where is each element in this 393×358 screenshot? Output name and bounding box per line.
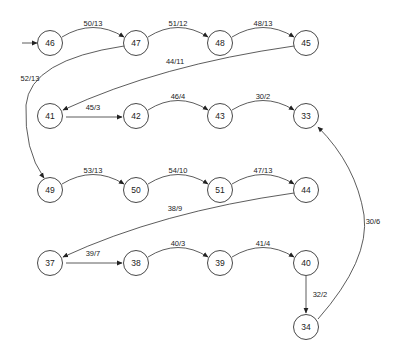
- svg-text:50: 50: [131, 185, 141, 195]
- node-42: 42: [124, 104, 149, 129]
- edge-label-45-41: 44/11: [166, 57, 184, 66]
- edge-39-40: [232, 248, 294, 258]
- svg-text:46: 46: [45, 38, 55, 48]
- node-45: 45: [294, 31, 319, 56]
- edge-label-40-34: 32/2: [313, 290, 328, 299]
- edge-label-44-37: 38/9: [168, 204, 183, 213]
- edge-51-44: [232, 175, 294, 185]
- node-47: 47: [124, 31, 149, 56]
- svg-text:41: 41: [45, 111, 55, 121]
- svg-text:38: 38: [131, 258, 141, 268]
- svg-text:37: 37: [45, 258, 55, 268]
- svg-text:42: 42: [131, 111, 141, 121]
- svg-text:51: 51: [215, 185, 225, 195]
- svg-text:39: 39: [215, 258, 225, 268]
- edge-label-47-48: 51/12: [169, 19, 188, 28]
- edge-label-41-42: 45/3: [86, 103, 101, 112]
- edge-label-51-44: 47/13: [254, 166, 273, 175]
- svg-text:34: 34: [301, 322, 311, 332]
- node-44: 44: [294, 178, 319, 203]
- edge-46-47: [62, 28, 124, 38]
- svg-text:48: 48: [215, 38, 225, 48]
- edge-label-50-51: 54/10: [169, 166, 188, 175]
- node-38: 38: [124, 251, 149, 276]
- node-39: 39: [208, 251, 233, 276]
- edge-label-43-33: 30/2: [256, 92, 271, 101]
- edge-label-39-40: 41/4: [256, 239, 271, 248]
- node-43: 43: [208, 104, 233, 129]
- node-50: 50: [124, 178, 149, 203]
- edge-label-48-45: 48/13: [254, 19, 273, 28]
- node-49: 49: [38, 178, 63, 203]
- edge-label-34-33: 30/6: [366, 217, 381, 226]
- edge-label-49-50: 53/13: [84, 166, 103, 175]
- edge-label-37-38: 39/7: [86, 249, 101, 258]
- state-diagram: 50/13 51/12 48/13 44/11 52/13 45/3 46/4 …: [0, 0, 393, 358]
- edge-50-51: [148, 175, 208, 185]
- node-37: 37: [38, 251, 63, 276]
- svg-text:40: 40: [301, 258, 311, 268]
- node-48: 48: [208, 31, 233, 56]
- node-41: 41: [38, 104, 63, 129]
- svg-text:43: 43: [215, 111, 225, 121]
- node-34: 34: [294, 315, 319, 340]
- svg-text:44: 44: [301, 185, 311, 195]
- svg-text:47: 47: [131, 38, 141, 48]
- node-40: 40: [294, 251, 319, 276]
- edge-38-39: [148, 248, 208, 258]
- node-51: 51: [208, 178, 233, 203]
- edge-42-43: [148, 101, 208, 111]
- svg-text:45: 45: [301, 38, 311, 48]
- edge-47-48: [148, 28, 208, 38]
- svg-text:49: 49: [45, 185, 55, 195]
- edge-label-46-47: 50/13: [84, 19, 103, 28]
- node-46: 46: [38, 31, 63, 56]
- edge-48-45: [232, 28, 294, 38]
- edge-43-33: [232, 101, 294, 111]
- edge-label-42-43: 46/4: [171, 92, 186, 101]
- svg-text:33: 33: [301, 111, 311, 121]
- edge-label-38-39: 40/3: [171, 239, 186, 248]
- edge-49-50: [62, 175, 124, 185]
- node-33: 33: [294, 104, 319, 129]
- edge-label-47-49: 52/13: [21, 74, 40, 83]
